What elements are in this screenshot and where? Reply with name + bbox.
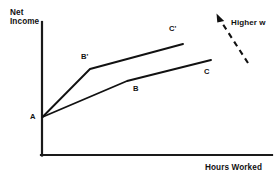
- figure-container: Net Income Hours Worked A B' C' B C High…: [0, 0, 280, 177]
- higher-wage-arrow-head: [217, 14, 225, 23]
- y-axis-label: Net Income: [10, 8, 39, 26]
- higher-wage-annotation-label: Higher w: [231, 19, 266, 28]
- curve-upper-higher-wage: [43, 44, 184, 117]
- point-label-c: C: [204, 68, 210, 77]
- point-label-a: A: [30, 113, 36, 122]
- point-label-c-prime: C': [169, 25, 177, 34]
- curve-lower-baseline-wage: [43, 60, 212, 117]
- point-label-b: B: [133, 85, 139, 94]
- point-label-b-prime: B': [81, 53, 89, 62]
- x-axis-label: Hours Worked: [205, 163, 262, 172]
